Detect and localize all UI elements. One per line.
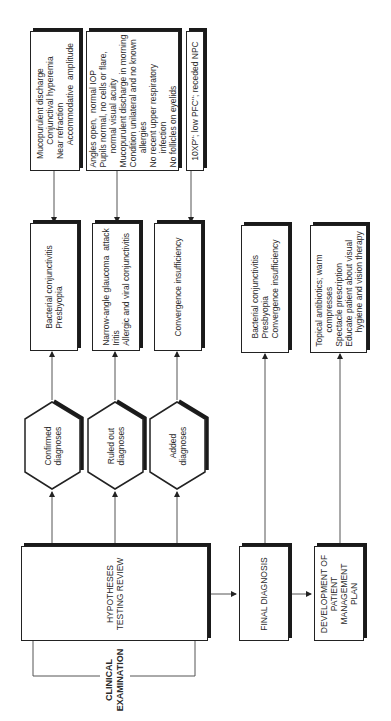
management-label: DEVELOPMENT OF PATIENT MANAGEMENT PLAN: [319, 554, 359, 632]
hexagon-label-added: Added diagnoses: [150, 402, 205, 489]
clinical-examination-label: CLINICAL EXAMINATION: [100, 645, 130, 715]
diagnoses-box-added: Convergence insufficiency: [154, 223, 202, 351]
management-plan-box: DEVELOPMENT OF PATIENT MANAGEMENT PLAN: [314, 546, 364, 641]
diagnoses-text: Narrow-angle glaucoma attack Iritis Alle…: [101, 228, 131, 346]
diagnoses-box-confirmed: Bacterial conjunctivitis Presbyopia: [30, 223, 78, 351]
findings-box-added: 10XP"; low PFC"; receded NPC: [186, 31, 204, 171]
hexagon-label-confirmed: Confirmed diagnoses: [25, 402, 80, 489]
management-detail: Topical antibiotics; warm compresses Spe…: [314, 231, 364, 346]
hypotheses-label: HYPOTHESES TESTING REVIEW: [105, 557, 125, 630]
findings-text: Angles open, normal IOP Pupils normal, n…: [88, 35, 178, 168]
hypotheses-testing-review-box: HYPOTHESES TESTING REVIEW: [21, 546, 208, 641]
diagnoses-text: Bacterial conjunctivitis Presbyopia: [44, 245, 64, 329]
final-diagnosis-label: FINAL DIAGNOSIS: [259, 557, 269, 630]
management-detail-box: Topical antibiotics; warm compresses Spe…: [310, 225, 367, 353]
diagnoses-box-ruled-out: Narrow-angle glaucoma attack Iritis Alle…: [92, 223, 140, 351]
findings-text: Mucopurulent discharge Conjunctival hype…: [35, 43, 75, 159]
findings-box-confirmed: Mucopurulent discharge Conjunctival hype…: [30, 31, 80, 171]
final-diagnosis-box: FINAL DIAGNOSIS: [239, 546, 289, 641]
final-diagnosis-detail: Bacterial conjunctivitis Presbyopia Conv…: [250, 239, 280, 338]
final-diagnosis-detail-box: Bacterial conjunctivitis Presbyopia Conv…: [241, 225, 289, 353]
findings-text: 10XP"; low PFC"; receded NPC: [190, 41, 200, 160]
diagnoses-text: Convergence insufficiency: [173, 237, 183, 336]
findings-box-ruled-out: Angles open, normal IOP Pupils normal, n…: [86, 31, 179, 171]
hexagon-label-ruled-out: Ruled out diagnoses: [88, 402, 143, 489]
